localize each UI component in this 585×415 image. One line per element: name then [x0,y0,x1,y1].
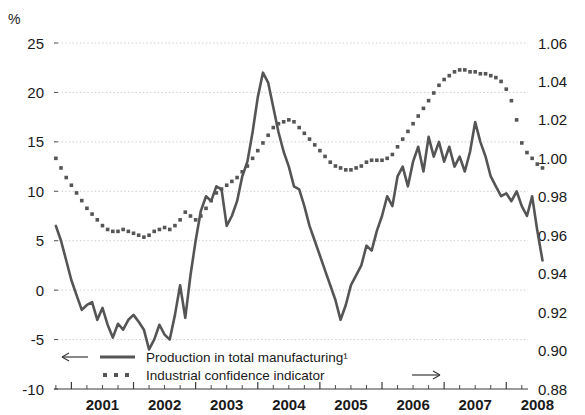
y-axis-right-tick-0.98: 0.98 [538,188,567,205]
series-dot [473,70,477,74]
series-dot [437,83,441,87]
series-dot [308,137,312,141]
series-dot [204,207,208,211]
series-dot [422,107,426,111]
series-dot [127,230,131,234]
series-dot [215,191,219,195]
legend-label-industrial-confidence-indicator: Industrial confidence indicator [146,368,325,383]
series-dot [225,183,229,187]
series-dot [230,180,234,184]
x-axis-tick-2001: 2001 [86,396,119,413]
series-dot [484,72,488,76]
y-axis-right-tick-0.96: 0.96 [538,227,567,244]
series-dot [209,199,213,203]
y-axis-left-tick--10: -10 [22,381,44,398]
series-dot [90,212,94,216]
series-dot [411,122,415,126]
x-axis-tick-2003: 2003 [210,396,243,413]
series-line-production-total-manufacturing [56,73,543,350]
series-dot [287,118,291,122]
series-dot [116,230,120,234]
series-dot [142,235,146,239]
y-axis-right-tick-0.90: 0.90 [538,342,567,359]
series-dot [173,224,177,228]
y-axis-left-tick-5: 5 [36,232,44,249]
series-dot [80,199,84,203]
series-dot [515,118,519,122]
y-axis-left-tick-0: 0 [36,282,44,299]
series-dot [380,158,384,162]
series-dot [251,157,255,161]
series-dot [106,228,110,232]
x-axis-tick-2006: 2006 [396,396,429,413]
series-dot [385,157,389,161]
series-dot [427,99,431,103]
series-dot [152,230,156,234]
series-dot [297,126,301,130]
series-dot [266,133,270,137]
x-axis-tick-2008: 2008 [521,396,554,413]
series-dot [432,91,436,95]
series-dot [168,228,172,232]
series-dot [479,72,483,76]
series-dot [504,87,508,91]
series-dot [220,187,224,191]
series-dot [158,228,162,232]
series-dot [132,232,136,236]
series-dot [178,218,182,222]
series-dot [349,168,353,172]
series-dot [447,74,451,78]
series-dot [163,226,167,230]
x-axis-tick-2004: 2004 [272,396,306,413]
x-axis-tick-2005: 2005 [334,396,367,413]
series-dot [323,155,327,159]
y-axis-left-tick-15: 15 [27,133,44,150]
series-dot [313,143,317,147]
legend-swatch-dot [125,373,129,377]
x-axis-tick-2002: 2002 [148,396,181,413]
x-axis-tick-2007: 2007 [459,396,492,413]
series-dot [375,158,379,162]
series-dot [416,114,420,118]
series-dot [510,99,514,103]
series-dot [235,176,239,180]
series-dot [365,160,369,164]
legend-swatch-dot [103,373,107,377]
series-dot [147,233,151,237]
series-dot [370,158,374,162]
series-dot [541,166,545,170]
series-dot [442,78,446,82]
series-dot [111,230,115,234]
series-dot [525,151,529,155]
series-dot [189,214,193,218]
series-dot [318,149,322,153]
series-dot [246,164,250,168]
series-dot [96,218,100,222]
series-dot [391,153,395,157]
series-dot [339,166,343,170]
series-dot [489,74,493,78]
y-axis-unit-label: % [8,11,20,27]
series-dot [344,168,348,172]
series-dot [401,137,405,141]
series-dot [256,149,260,153]
series-dot [75,191,79,195]
chart-canvas: %-10-505101520250.880.900.920.940.960.98… [0,0,585,415]
series-dot [183,210,187,214]
y-axis-right-tick-1.00: 1.00 [538,150,567,167]
y-axis-right-tick-0.92: 0.92 [538,304,567,321]
series-dot [194,218,198,222]
legend-label-production-total-manufacturing: Production in total manufacturing¹ [146,350,348,365]
series-dot [396,145,400,149]
chart-figure: %-10-505101520250.880.900.920.940.960.98… [0,0,585,415]
legend-swatch-dot [114,373,118,377]
series-dot [458,68,462,72]
series-dot [354,166,358,170]
series-dot [64,176,68,180]
series-dot [468,70,472,74]
y-axis-left-tick-25: 25 [27,35,44,52]
series-dot [499,80,503,84]
series-dot [70,183,74,187]
series-dot [530,157,534,161]
y-axis-left-tick-20: 20 [27,84,44,101]
